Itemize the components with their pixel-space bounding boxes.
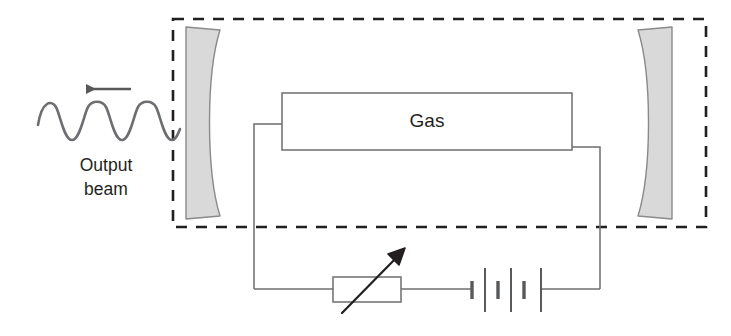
wire-left-electrode: [254, 124, 282, 289]
wire-right-electrode: [572, 147, 600, 289]
output-beam-label-line1: Output: [80, 155, 133, 175]
gas-laser-diagram: Gas Output beam: [0, 0, 731, 336]
battery-symbol: [472, 268, 541, 312]
output-beam-wave: [38, 102, 180, 140]
diagram-canvas: Gas Output beam: [0, 0, 731, 336]
right-mirror-shape: [638, 27, 672, 219]
gas-tube-label: Gas: [410, 110, 445, 131]
left-mirror-shape: [186, 27, 220, 219]
variable-resistor-body: [333, 277, 401, 302]
output-beam-label-line2: beam: [84, 179, 128, 199]
